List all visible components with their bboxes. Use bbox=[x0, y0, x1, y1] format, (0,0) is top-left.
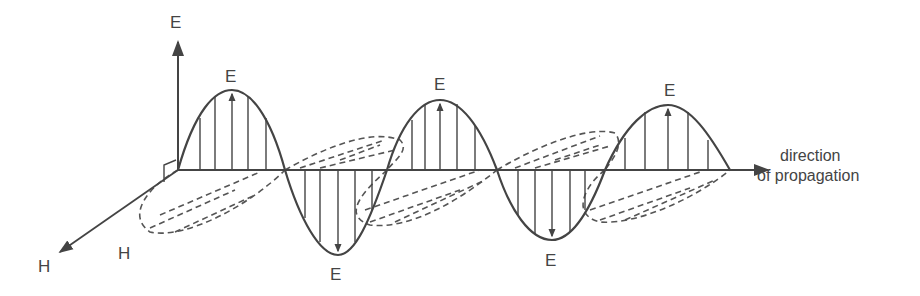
e-trough-label-2: E bbox=[545, 252, 556, 269]
e-trough-label-1: E bbox=[330, 266, 341, 283]
h-field-label: H bbox=[118, 245, 130, 262]
direction-label-line1: direction bbox=[780, 146, 840, 165]
h-axis-label: H bbox=[38, 258, 50, 275]
direction-label-line2: of propagation bbox=[757, 166, 859, 185]
h-lobe-4 bbox=[497, 131, 619, 170]
e-peak-label-1: E bbox=[225, 68, 236, 85]
h-axis bbox=[60, 170, 178, 252]
e-field-wave bbox=[178, 90, 730, 255]
h-lobe-5 bbox=[583, 170, 730, 222]
h-lobe-2 bbox=[285, 137, 403, 170]
h-field-lobes bbox=[140, 131, 730, 233]
e-field-vectors bbox=[200, 94, 708, 251]
e-peak-label-3: E bbox=[664, 82, 675, 99]
e-peak-label-2: E bbox=[434, 76, 445, 93]
e-axis-label: E bbox=[170, 14, 181, 31]
